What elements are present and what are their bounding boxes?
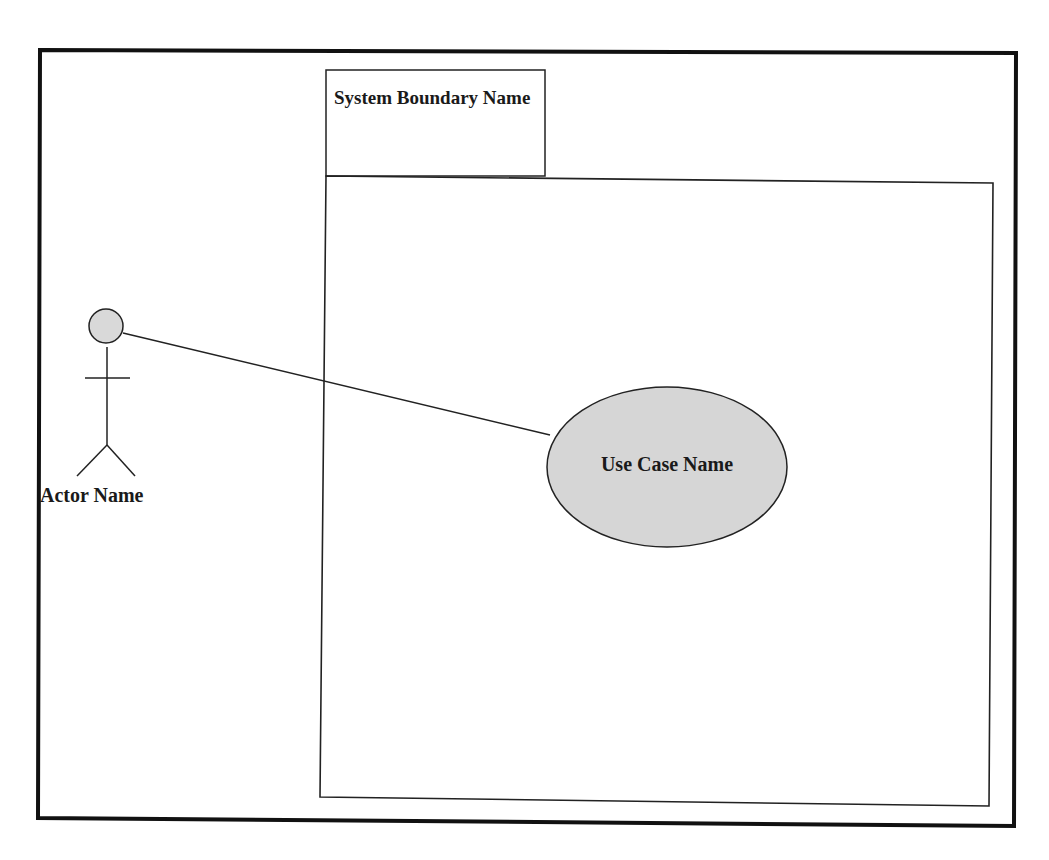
actor-left-leg — [77, 445, 107, 476]
association-line[interactable] — [123, 333, 550, 435]
actor-head — [89, 309, 123, 343]
use-case-name-label: Use Case Name — [547, 453, 787, 476]
actor-right-leg — [107, 445, 135, 476]
actor-name-label: Actor Name — [40, 484, 143, 507]
system-boundary-name: System Boundary Name — [334, 85, 539, 111]
diagram-canvas — [0, 0, 1049, 860]
